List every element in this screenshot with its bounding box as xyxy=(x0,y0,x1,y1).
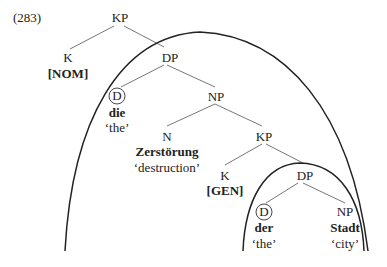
node-np1: NP xyxy=(208,89,225,104)
gloss-the-1: ‘the’ xyxy=(105,120,130,135)
edge-dp2-np xyxy=(303,183,345,203)
node-k-gen: K xyxy=(220,168,230,183)
syntax-tree-diagram: (283) KP K [NOM] DP D die ‘the’ NP N Zer… xyxy=(0,0,387,267)
node-np2: NP xyxy=(337,204,354,219)
edge-kp2-k xyxy=(225,144,262,165)
node-dp1: DP xyxy=(162,50,179,65)
feature-nom: [NOM] xyxy=(48,66,88,81)
example-number: (283) xyxy=(13,10,41,25)
node-n: N xyxy=(162,129,172,144)
node-d1: D xyxy=(112,88,121,103)
gloss-city: ‘city’ xyxy=(331,236,359,251)
outer-phase-arc xyxy=(65,32,368,251)
edge-kp-k xyxy=(70,26,114,49)
edge-np-kp xyxy=(215,104,262,126)
word-stadt: Stadt xyxy=(330,220,360,235)
edge-kp2-dp xyxy=(266,144,303,163)
node-kp-root: KP xyxy=(112,10,129,25)
feature-gen: [GEN] xyxy=(207,183,244,198)
edge-kp-dp xyxy=(124,26,164,47)
edge-np-n xyxy=(167,104,215,126)
node-kp2: KP xyxy=(256,129,273,144)
word-zerstoerung: Zerstörung xyxy=(136,144,199,159)
node-d2: D xyxy=(259,204,268,219)
word-der: der xyxy=(255,220,274,235)
gloss-the-2: ‘the’ xyxy=(252,236,277,251)
edge-dp2-d xyxy=(266,183,298,203)
gloss-destruction: ‘destruction’ xyxy=(134,160,200,175)
node-k-nom: K xyxy=(63,50,73,65)
edge-dp-d xyxy=(121,65,164,87)
word-die: die xyxy=(109,105,126,120)
edge-dp-np xyxy=(167,65,215,87)
node-dp2: DP xyxy=(297,168,314,183)
